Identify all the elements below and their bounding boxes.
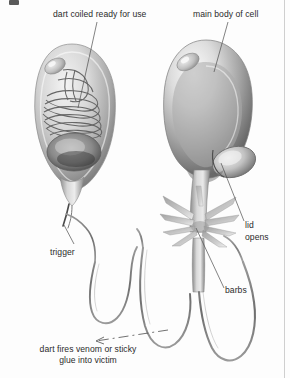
label-dart-coiled: dart coiled ready for use	[53, 9, 146, 20]
left-cell-undischarged	[35, 44, 116, 228]
label-lid-opens-line2: opens	[245, 231, 269, 243]
leader-dart-fires	[96, 330, 168, 344]
lower-shaft	[192, 238, 205, 292]
left-neck	[60, 177, 84, 206]
label-trigger: trigger	[50, 247, 75, 258]
barb-collar	[191, 221, 209, 233]
label-dart-fires-line1: dart fires venom or sticky	[8, 344, 168, 355]
label-dart-fires: dart fires venom or sticky glue into vic…	[8, 344, 168, 366]
figure-container: dart coiled ready for use main body of c…	[0, 0, 290, 378]
label-lid-opens: lid opens	[245, 219, 269, 243]
label-dart-fires-line2: glue into victim	[8, 355, 168, 366]
nematocyst-illustration	[0, 0, 290, 378]
leader-trigger	[64, 225, 74, 244]
right-cell-discharged	[160, 40, 259, 292]
right-border-rule	[284, 0, 285, 378]
label-main-body: main body of cell	[193, 9, 258, 20]
label-barbs: barbs	[225, 285, 247, 296]
label-lid-opens-line1: lid	[245, 219, 269, 231]
